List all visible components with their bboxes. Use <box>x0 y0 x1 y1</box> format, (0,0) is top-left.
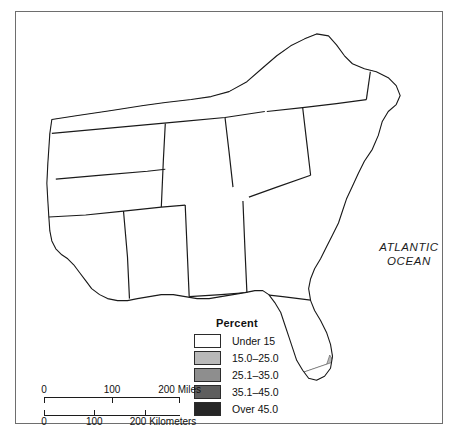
county-polygon <box>18 218 46 233</box>
county-polygon <box>376 208 388 226</box>
county-polygon <box>370 186 386 198</box>
county-polygon <box>228 47 241 60</box>
county-polygon <box>401 178 442 199</box>
county-polygon <box>309 287 328 301</box>
county-polygon <box>16 129 42 159</box>
county-polygon <box>174 64 184 77</box>
county-polygon <box>137 313 158 335</box>
county-polygon <box>172 40 186 51</box>
county-polygon <box>217 45 229 61</box>
county-polygon <box>390 42 405 58</box>
county-polygon <box>352 259 365 276</box>
county-polygon <box>347 301 379 322</box>
county-polygon <box>152 57 165 75</box>
county-polygon <box>350 198 366 216</box>
county-polygon <box>108 66 122 80</box>
county-polygon <box>372 338 402 358</box>
county-polygon <box>254 35 267 45</box>
county-polygon <box>229 68 242 82</box>
county-polygon <box>404 265 442 326</box>
county-polygon <box>378 301 413 325</box>
county-polygon <box>80 35 96 46</box>
county-polygon <box>74 56 89 69</box>
county-polygon <box>218 60 236 73</box>
county-polygon <box>368 12 406 34</box>
county-polygon <box>93 12 110 38</box>
county-polygon <box>55 58 72 69</box>
legend-swatch <box>194 334 221 348</box>
county-polygon <box>66 97 79 110</box>
county-polygon <box>336 237 351 254</box>
county-polygon <box>83 19 95 36</box>
county-polygon <box>389 108 407 126</box>
county-polygon <box>125 90 141 102</box>
county-polygon <box>65 262 74 281</box>
county-polygon <box>53 91 64 100</box>
county-polygon <box>339 283 351 304</box>
scale-km-tick-0: 0 <box>41 416 47 427</box>
county-polygon <box>219 71 233 81</box>
county-polygon <box>201 33 219 49</box>
county-polygon <box>382 206 399 219</box>
county-polygon <box>383 174 402 195</box>
county-polygon <box>141 46 154 60</box>
county-polygon <box>358 350 375 364</box>
county-polygon <box>384 46 398 62</box>
county-polygon <box>364 42 376 56</box>
scale-miles-rule <box>44 397 180 404</box>
county-polygon <box>243 54 254 68</box>
county-polygon <box>94 46 108 58</box>
county-polygon <box>16 244 42 297</box>
county-polygon <box>71 280 86 301</box>
county-polygon <box>301 378 346 423</box>
county-polygon <box>368 192 385 208</box>
county-polygon <box>398 103 415 119</box>
county-polygon <box>119 34 131 50</box>
county-polygon <box>205 48 218 64</box>
county-polygon <box>363 320 384 352</box>
map-legend: Percent Under 1515.0–25.025.1–35.035.1–4… <box>194 317 298 418</box>
county-polygon <box>391 234 407 247</box>
county-polygon <box>356 193 371 210</box>
county-polygon <box>122 341 147 368</box>
county-polygon <box>61 364 85 383</box>
county-polygon <box>94 80 109 95</box>
county-polygon <box>27 251 48 272</box>
county-polygon <box>123 320 142 341</box>
county-polygon <box>371 217 380 232</box>
scale-km-labels: 0 100 200 Kilometers <box>44 416 180 429</box>
county-polygon <box>204 12 226 39</box>
county-polygon <box>172 55 184 67</box>
county-polygon <box>350 12 365 38</box>
county-polygon <box>164 48 180 61</box>
county-polygon <box>383 268 399 290</box>
county-polygon <box>17 131 44 145</box>
county-polygon <box>357 177 372 193</box>
county-polygon <box>254 12 272 36</box>
county-polygon <box>140 87 154 97</box>
county-polygon <box>75 75 90 92</box>
county-polygon <box>198 296 224 318</box>
county-polygon <box>193 15 209 38</box>
county-polygon <box>406 93 442 127</box>
county-polygon <box>51 66 70 83</box>
county-polygon <box>150 12 171 37</box>
county-polygon <box>110 86 125 100</box>
county-polygon <box>33 53 45 68</box>
county-polygon <box>386 200 405 211</box>
county-polygon <box>54 260 65 274</box>
county-polygon <box>371 262 385 279</box>
county-polygon <box>344 328 364 344</box>
county-polygon <box>164 36 179 48</box>
county-polygon <box>81 308 96 331</box>
county-polygon <box>145 348 171 368</box>
county-polygon <box>90 99 102 111</box>
legend-entry: Over 45.0 <box>194 401 298 417</box>
county-polygon <box>83 43 96 54</box>
scale-km-tick-100: 100 <box>86 416 103 427</box>
county-polygon <box>119 59 138 77</box>
county-polygon <box>56 12 77 36</box>
county-polygon <box>16 183 44 203</box>
county-polygon <box>406 227 442 256</box>
county-polygon <box>297 12 320 32</box>
